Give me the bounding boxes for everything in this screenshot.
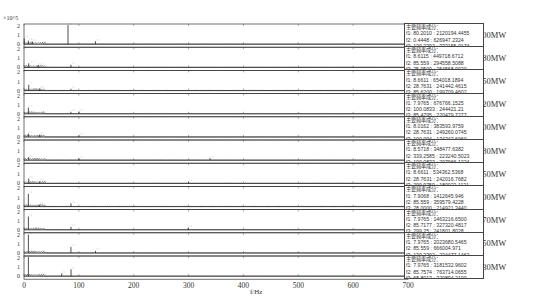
svg-text:2: 2 <box>17 93 20 99</box>
spectrum-panel: 012□□□ <box>17 46 408 70</box>
svg-text:0: 0 <box>17 273 20 279</box>
svg-text:□: □ <box>29 130 32 134</box>
svg-text:□: □ <box>29 37 32 41</box>
frequency-components-box: 主要频率成分：f1: 8.0162 : 383593.9759f2: 28.76… <box>404 116 484 140</box>
svg-text:□: □ <box>69 22 72 26</box>
spectrum-panel: 012□□□ <box>17 69 408 93</box>
svg-text:2: 2 <box>17 69 20 75</box>
svg-text:□: □ <box>72 108 75 112</box>
svg-text:□: □ <box>96 247 99 251</box>
svg-text:□: □ <box>25 35 28 39</box>
svg-text:1: 1 <box>17 125 20 131</box>
svg-text:2: 2 <box>17 116 20 122</box>
svg-text:2: 2 <box>17 162 20 168</box>
spectrum-panel: 012□□□ <box>17 93 408 117</box>
svg-text:1: 1 <box>17 102 20 108</box>
svg-text:□: □ <box>211 155 214 159</box>
spectrum-panel: 012□□□ <box>17 162 408 186</box>
svg-text:2: 2 <box>17 139 20 145</box>
frequency-components-box: 主要频率成分：f1: 7.9068 : 1412645.946f2: 85.55… <box>404 185 484 209</box>
svg-text:□: □ <box>189 224 192 228</box>
x-tick-label: 300 <box>183 281 194 290</box>
x-tick-label: 400 <box>238 281 249 290</box>
frequency-components-box: 主要频率成分：f1: 8.6611 : 534362.5368f2: 28.76… <box>404 162 484 186</box>
y-scale-label: ×10^5 <box>3 15 18 21</box>
x-tick-label: 0 <box>22 281 26 290</box>
frequency-components-box: 主要频率成分：f1: 8.6115 : 449718.6712f2: 85.55… <box>404 46 484 70</box>
svg-text:□: □ <box>33 38 36 42</box>
svg-text:1: 1 <box>17 195 20 201</box>
svg-text:□: □ <box>41 85 44 89</box>
svg-text:1: 1 <box>17 264 20 270</box>
svg-text:□: □ <box>72 243 75 247</box>
svg-text:1: 1 <box>17 171 20 177</box>
spectrum-panel: 012□□□□□ <box>17 22 408 48</box>
spectrum-panel: 012□□□ <box>17 116 408 140</box>
frequency-components-box: 主要频率成分：f1: 7.9765 : 676766.1525f2: 100.0… <box>404 93 484 117</box>
svg-text:□: □ <box>30 175 33 179</box>
svg-text:2: 2 <box>17 232 20 238</box>
svg-text:1: 1 <box>17 148 20 154</box>
svg-text:2: 2 <box>17 185 20 191</box>
svg-text:2: 2 <box>17 23 20 29</box>
spectrum-panel: 012□□□ <box>17 185 408 209</box>
svg-text:1: 1 <box>17 241 20 247</box>
svg-text:□: □ <box>72 200 75 204</box>
svg-text:□: □ <box>96 38 99 42</box>
svg-text:1: 1 <box>17 218 20 224</box>
x-tick-label: 600 <box>348 281 359 290</box>
x-tick-label: 700 <box>402 281 413 290</box>
svg-text:1: 1 <box>17 32 20 38</box>
svg-text:□: □ <box>29 213 32 217</box>
svg-text:□: □ <box>30 81 33 85</box>
x-tick-label: 500 <box>293 281 304 290</box>
spectrum-panel: 012□□□ <box>17 231 408 256</box>
svg-text:□: □ <box>29 190 32 194</box>
svg-text:□: □ <box>29 254 32 258</box>
svg-text:□: □ <box>29 104 32 108</box>
svg-text:2: 2 <box>17 209 20 215</box>
svg-text:□: □ <box>63 270 66 274</box>
svg-text:□: □ <box>80 155 83 159</box>
frequency-components-box: 主要频率成分：f1: 8.5718 : 348477.6382f2: 339.2… <box>404 139 484 163</box>
svg-text:□: □ <box>41 178 44 182</box>
frequency-components-box: 主要频率成分：f1: 7.9765 : 1463216.6500f2: 85.7… <box>404 209 484 233</box>
svg-text:2: 2 <box>17 255 20 261</box>
component-row: f3: 68.8013 : 320894.2100 <box>406 275 482 279</box>
frequency-components-box: 主要频率成分：f1: 7.9765 : 2023680.5465f2: 85.5… <box>404 232 484 256</box>
svg-text:□: □ <box>190 178 193 182</box>
spectrum-panel: 012□□□ <box>17 139 408 163</box>
frequency-components-box: 主要频率成分：f1: 8.6611 : 654018.1894f2: 28.76… <box>404 69 484 93</box>
svg-text:□: □ <box>72 85 75 89</box>
svg-text:1: 1 <box>17 55 20 61</box>
x-axis-label: f/Hz <box>250 288 262 296</box>
svg-text:□: □ <box>30 154 33 158</box>
svg-text:□: □ <box>39 62 42 66</box>
svg-text:□: □ <box>80 132 83 136</box>
frequency-components-box: 主要频率成分：f1: 80.2010 : 2120194.4455f2: 0.4… <box>404 23 484 47</box>
spectrum-panel: 012□□□ <box>17 254 408 280</box>
svg-text:□: □ <box>30 60 33 64</box>
frequency-components-box: 主要频率成分：f1: 7.9765 : 3181532.9602f2: 85.7… <box>404 255 484 279</box>
svg-text:□: □ <box>72 223 75 227</box>
svg-text:□: □ <box>41 131 44 135</box>
svg-text:1: 1 <box>17 79 20 85</box>
spectrum-panel: 012□□□ <box>17 209 408 233</box>
svg-text:□: □ <box>72 61 75 65</box>
svg-text:□: □ <box>72 266 75 270</box>
x-tick-label: 200 <box>128 281 139 290</box>
svg-text:□: □ <box>80 108 83 112</box>
svg-text:2: 2 <box>17 46 20 52</box>
x-tick-label: 100 <box>73 281 84 290</box>
